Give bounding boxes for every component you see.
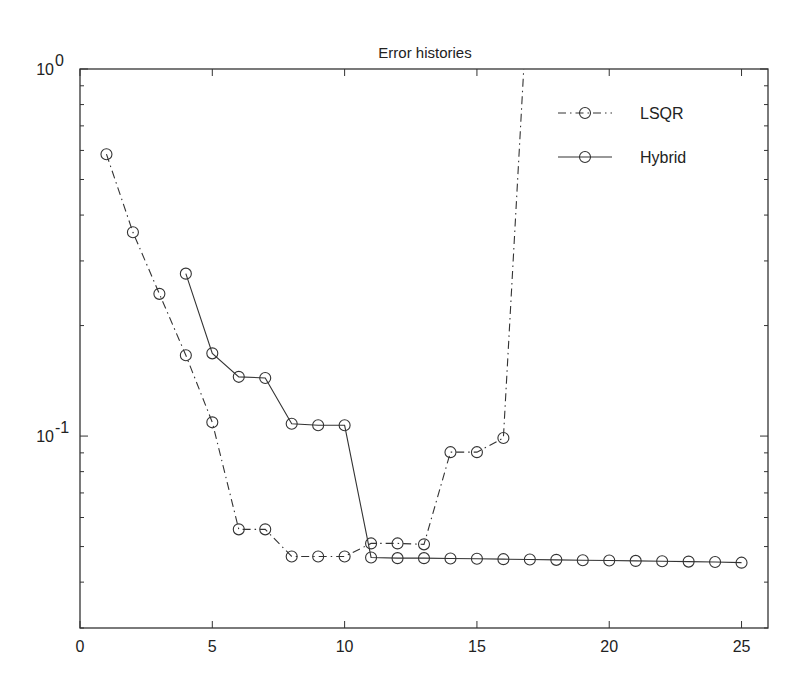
series-lsqr [101, 0, 530, 562]
chart-title: Error histories [378, 44, 471, 61]
legend: LSQRHybrid [558, 105, 686, 166]
x-tick-label: 20 [600, 638, 618, 655]
x-tick-label: 5 [208, 638, 217, 655]
circle-marker-icon [445, 447, 456, 458]
y-tick-exponent: 0 [55, 52, 64, 69]
plot-area [101, 0, 747, 568]
x-tick-label: 15 [468, 638, 486, 655]
x-tick-label: 25 [733, 638, 751, 655]
circle-marker-icon [154, 288, 165, 299]
circle-marker-icon [207, 417, 218, 428]
y-tick-label: 10 [36, 428, 54, 445]
y-tick-exponent: -1 [55, 419, 69, 436]
y-tick-label: 10 [36, 61, 54, 78]
legend-label: LSQR [640, 105, 684, 122]
x-tick-label: 10 [336, 638, 354, 655]
series-hybrid [180, 268, 747, 568]
error-histories-chart: Error histories 051015202510-1100 LSQRHy… [0, 0, 805, 694]
legend-item-hybrid: Hybrid [558, 149, 686, 166]
hybrid-line [186, 274, 742, 563]
x-tick-label: 0 [76, 638, 85, 655]
circle-marker-icon [392, 538, 403, 549]
legend-item-lsqr: LSQR [558, 105, 684, 122]
lsqr-line [106, 0, 529, 556]
legend-label: Hybrid [640, 149, 686, 166]
